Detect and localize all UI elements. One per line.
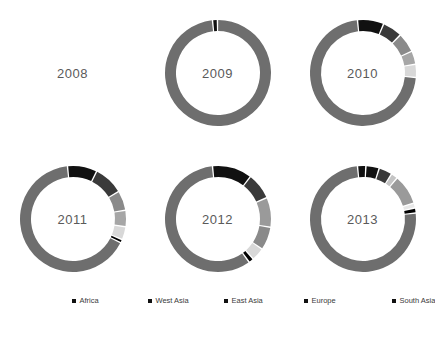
donut-segment-2012-3	[256, 198, 270, 226]
donut-panel-2012: 2012	[145, 146, 290, 292]
legend-item-east-asia[interactable]: East Asia	[224, 294, 304, 308]
donut-panel-2008: 2008	[0, 0, 145, 146]
donut-chart-figure: 200820092010201120122013 AfricaWest Asia…	[0, 0, 435, 338]
donut-segment-2009-1	[213, 20, 217, 31]
donut-segment-2012-0	[165, 166, 248, 272]
donut-segment-2013-5	[390, 179, 413, 206]
legend-item-europe[interactable]: Europe	[304, 294, 392, 308]
legend-label: Africa	[80, 294, 99, 308]
legend-label: South Asia	[400, 294, 435, 308]
legend-square-icon	[392, 299, 396, 303]
legend-label: West Asia	[156, 294, 189, 308]
donut-segment-2011-3	[109, 192, 125, 211]
donut-segment-2010-1	[358, 20, 383, 34]
donut-panel-2011: 2011	[0, 146, 145, 292]
legend-item-africa[interactable]: Africa	[72, 294, 148, 308]
donut-segment-2013-2	[365, 166, 378, 179]
donut-segment-2011-5	[111, 226, 124, 239]
legend-label: Europe	[312, 294, 336, 308]
donut-segment-2008-0	[67, 20, 68, 31]
donut-segment-2013-1	[358, 166, 365, 177]
donut-segment-2013-7	[404, 209, 415, 214]
donut-panel-2010: 2010	[290, 0, 435, 146]
legend-square-icon	[72, 299, 76, 303]
donut-segment-2009-0	[165, 20, 271, 126]
donut-ring-2011: 2011	[12, 158, 134, 280]
legend-square-icon	[148, 299, 152, 303]
legend-square-icon	[224, 299, 228, 303]
donut-segment-2011-2	[92, 172, 118, 197]
legend-square-icon	[304, 299, 308, 303]
donut-segment-2012-4	[253, 226, 270, 248]
legend-label: East Asia	[232, 294, 263, 308]
donut-panels-grid: 200820092010201120122013	[0, 0, 435, 292]
donut-segment-2012-1	[213, 166, 249, 185]
donut-segment-2011-1	[68, 166, 96, 181]
legend-item-west-asia[interactable]: West Asia	[148, 294, 224, 308]
donut-ring-2009: 2009	[157, 12, 279, 134]
donut-ring-2013: 2013	[302, 158, 424, 280]
donut-segment-2010-0	[310, 20, 416, 126]
donut-ring-2008: 2008	[12, 12, 134, 134]
chart-legend: AfricaWest AsiaEast AsiaEuropeSouth Asia…	[72, 294, 392, 308]
donut-segment-2011-4	[114, 211, 125, 226]
donut-ring-2010: 2010	[302, 12, 424, 134]
donut-panel-2009: 2009	[145, 0, 290, 146]
donut-ring-2012: 2012	[157, 158, 279, 280]
donut-segment-2012-2	[243, 177, 265, 201]
legend-item-south-asia[interactable]: South Asia	[392, 294, 435, 308]
donut-panel-2013: 2013	[290, 146, 435, 292]
donut-segment-2010-5	[404, 65, 415, 77]
